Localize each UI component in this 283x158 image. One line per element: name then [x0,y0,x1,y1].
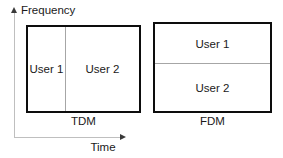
time-axis-label: Time [73,141,133,154]
time-axis-line [14,137,122,138]
diagram-canvas: Frequency Time User 1 User 2 TDM User 1 … [0,0,283,158]
fdm-cell-user-1: User 1 [155,24,270,64]
tdm-cell-user-1-label: User 1 [30,63,64,75]
frequency-axis-label: Frequency [21,4,75,17]
fdm-cell-user-2-label: User 2 [196,82,230,94]
tdm-cell-user-2: User 2 [66,27,139,111]
tdm-caption: TDM [26,115,141,127]
tdm-cell-user-2-label: User 2 [86,63,120,75]
arrow-up-icon [11,7,17,13]
frequency-axis-line [14,12,15,137]
tdm-cell-user-1: User 1 [28,27,66,111]
fdm-box: User 1 User 2 [153,22,272,113]
arrow-right-icon [120,134,126,140]
tdm-box: User 1 User 2 [26,25,141,113]
fdm-caption: FDM [153,115,272,127]
fdm-cell-user-1-label: User 1 [196,38,230,50]
fdm-cell-user-2: User 2 [155,64,270,111]
